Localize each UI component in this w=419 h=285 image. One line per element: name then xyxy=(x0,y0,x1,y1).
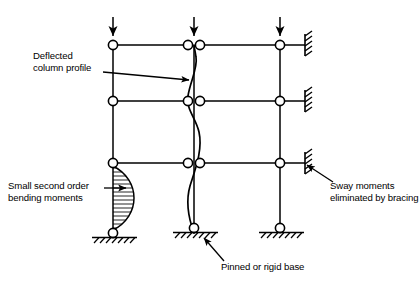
bending-moment-diagram xyxy=(113,166,145,230)
joint-right-level2 xyxy=(275,96,284,105)
joint-right-level1 xyxy=(275,40,284,49)
joint-middle-right-level3 xyxy=(195,158,204,167)
joint-middle-left-level2 xyxy=(183,96,192,105)
base-left xyxy=(92,228,137,243)
joint-right-level3 xyxy=(275,158,284,167)
bending-moment-hatching xyxy=(113,168,145,228)
label-sway-moments-eliminated-by-bracing: Sway moments eliminated by bracing xyxy=(330,180,419,203)
joint-middle-right-level2 xyxy=(195,96,204,105)
bracing-support-level-2 xyxy=(305,87,312,112)
joint-left-level1 xyxy=(108,40,117,49)
joint-middle-left-level3 xyxy=(183,158,192,167)
joint-left-level2 xyxy=(108,96,117,105)
label-deflected-column-profile: Deflected column profile xyxy=(33,50,91,73)
load-arrows xyxy=(113,17,280,36)
leader-base xyxy=(204,238,224,261)
bracing-support-level-3 xyxy=(305,149,312,174)
base-supports xyxy=(92,223,304,243)
joint-middle-right-level1 xyxy=(195,40,204,49)
base-right xyxy=(259,223,304,238)
label-small-second-order-bending-moments: Small second order bending moments xyxy=(8,180,89,203)
leader-deflected-profile xyxy=(103,72,189,80)
frame-members xyxy=(113,45,305,233)
joint-left-level3 xyxy=(108,158,117,167)
bracing-support-level-1 xyxy=(305,31,312,56)
bracing-supports xyxy=(305,31,312,174)
figure-root: Deflected column profile Small second or… xyxy=(0,0,419,285)
frame-diagram xyxy=(0,0,419,285)
joint-middle-left-level1 xyxy=(183,40,192,49)
label-pinned-or-rigid-base: Pinned or rigid base xyxy=(221,261,304,273)
base-middle xyxy=(173,223,218,238)
